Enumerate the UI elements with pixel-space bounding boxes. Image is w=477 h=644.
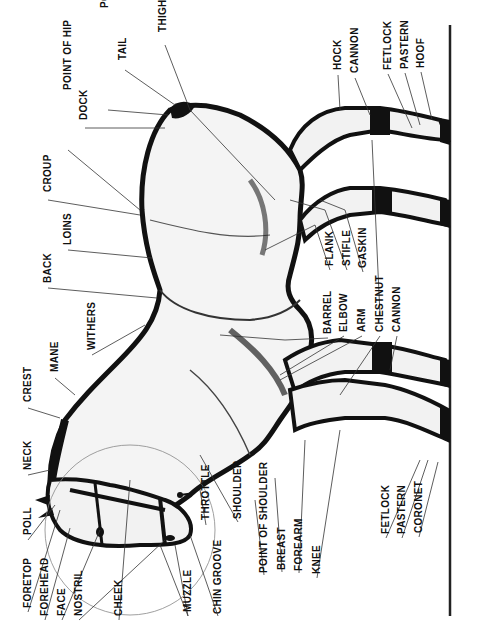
label-poll: POLL [23,507,33,535]
label-tail: TAIL [118,37,128,60]
label-thigh: THIGH [158,0,168,32]
label-elbow: ELBOW [339,293,349,332]
label-hock: HOCK [333,39,343,70]
label-forehead: FOREHEAD [40,557,50,616]
label-muzzle: MUZZLE [183,570,193,612]
label-barrel: BARREL [323,291,333,334]
horse-illustration [0,0,477,644]
label-nostril: NOSTRIL [74,570,84,616]
label-chestnut: CHESTNUT [375,275,385,332]
label-withers: WITHERS [87,302,97,350]
label-fetlock-front: FETLOCK [381,485,391,534]
label-crest: CREST [23,367,33,402]
label-dock: DOCK [79,89,89,120]
horse-anatomy-diagram: THIGHTAILPOINT OF BUTTOCKDOCKPOINT OF HI… [0,0,477,644]
label-shoulder: SHOULDER [233,460,243,519]
label-pastern-front: PASTERN [397,485,407,534]
label-back: BACK [43,253,53,283]
label-arm: ARM [357,308,367,332]
label-knee: KNEE [312,545,322,574]
label-gaskin: GASKIN [358,227,368,268]
label-point-of-shoulder: POINT OF SHOULDER [259,462,269,573]
label-cannon-rear: CANNON [350,27,360,73]
label-neck: NECK [23,440,33,470]
horse-legs [285,108,450,440]
label-point-of-buttock: POINT OF BUTTOCK [100,0,110,8]
label-face: FACE [57,588,67,616]
label-foretop: FORETOP [23,558,33,608]
label-flank: FLANK [325,231,335,266]
label-mane: MANE [50,341,60,372]
label-stifle: STIFLE [342,230,352,266]
label-coronet: CORONET [414,481,424,533]
label-throttle: THROTTLE [201,464,211,520]
label-pastern-rear: PASTERN [400,20,410,69]
label-breast: BREAST [277,527,287,570]
label-chin-groove: CHIN GROOVE [213,540,223,614]
label-forearm: FOREARM [294,518,304,571]
label-loins: LOINS [63,213,73,245]
label-croup: CROUP [43,154,53,192]
label-cheek: CHEEK [114,579,124,616]
label-fetlock-rear: FETLOCK [383,21,393,70]
label-hoof: HOOF [416,38,426,68]
label-point-of-hip: POINT OF HIP [63,20,73,90]
label-cannon-front: CANNON [392,286,402,332]
